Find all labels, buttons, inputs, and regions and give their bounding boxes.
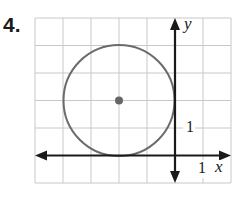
x-axis-left-arrow-icon: [35, 151, 47, 161]
center-point: [115, 97, 123, 105]
x-axis-label: x: [215, 157, 223, 177]
x-tick-label: 1: [198, 159, 206, 177]
y-axis-down-arrow-icon: [170, 171, 180, 183]
y-axis-up-arrow-icon: [170, 18, 180, 30]
y-tick-label: 1: [186, 118, 194, 136]
coordinate-plane: [0, 0, 250, 197]
y-axis-label: y: [184, 14, 192, 34]
